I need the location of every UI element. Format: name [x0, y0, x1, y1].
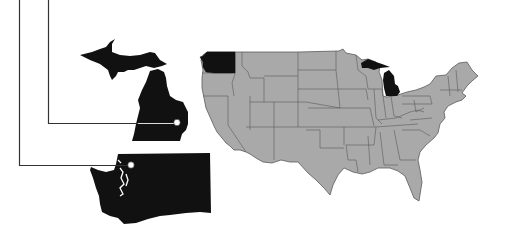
- enlarged-washington: [90, 153, 211, 224]
- us-outline: [201, 49, 478, 201]
- callout-line-washington: [20, 0, 129, 166]
- us-map: [200, 49, 478, 201]
- marker-dot-washington: [128, 162, 134, 168]
- map-figure: Map of the contiguous United States with…: [0, 0, 515, 234]
- washington-shape: [90, 153, 211, 224]
- map-canvas: [0, 0, 515, 234]
- michigan-lower-peninsula: [132, 69, 188, 141]
- marker-dot-michigan: [174, 119, 180, 125]
- us-map-washington: [200, 52, 235, 73]
- enlarged-michigan: [80, 39, 188, 141]
